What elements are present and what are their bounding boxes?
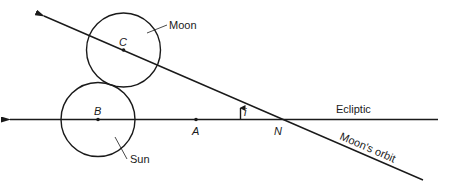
point-c-dot <box>122 48 126 52</box>
point-a-label: A <box>191 125 199 137</box>
sun-label: Sun <box>130 153 150 165</box>
eclipse-geometry-diagram: C B A N Moon Sun Ecliptic Moon's orbit i <box>0 0 456 189</box>
moons-orbit-line <box>44 16 423 180</box>
point-a-dot <box>194 118 198 122</box>
sun-leader-line <box>115 137 127 159</box>
moon-label: Moon <box>169 19 197 31</box>
point-n-label: N <box>274 125 282 137</box>
point-b-dot <box>96 118 100 122</box>
point-c-label: C <box>119 36 127 48</box>
ecliptic-label: Ecliptic <box>336 103 371 115</box>
inclination-angle-label: i <box>244 106 247 118</box>
moon-leader-line <box>147 25 167 33</box>
point-b-label: B <box>94 105 101 117</box>
